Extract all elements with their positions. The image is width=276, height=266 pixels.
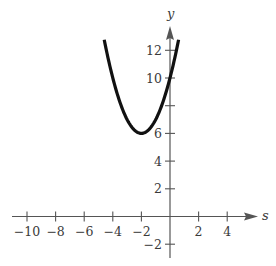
y-tick-label: 6 [154,126,162,141]
parabola-chart: −10−8−6−4−224 −22461012 s y [0,0,276,266]
x-tick-label: −6 [75,224,93,239]
y-tick-label: 10 [146,71,162,86]
x-tick-label: 4 [223,224,231,239]
y-tick-label: 4 [154,154,162,169]
y-tick-label: 2 [154,181,162,196]
y-tick-label: −2 [144,237,162,252]
x-tick-label: 2 [195,224,203,239]
y-tick-label: 12 [146,43,162,58]
x-axis-label: s [262,208,269,223]
x-axis [12,213,258,221]
x-tick-label: −8 [46,224,64,239]
x-tick-label: −4 [104,224,122,239]
x-tick-labels: −10−8−6−4−224 [14,212,231,239]
y-axis-label: y [166,6,175,21]
parabola-curve [104,40,178,134]
x-tick-label: −10 [14,224,40,239]
